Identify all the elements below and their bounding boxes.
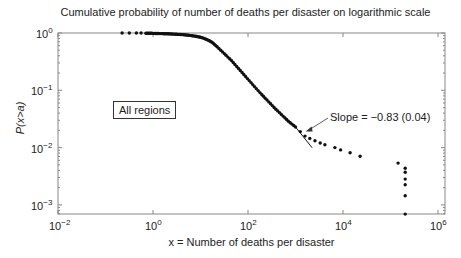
data-point [323, 143, 326, 146]
data-point [404, 171, 407, 174]
data-point [135, 31, 138, 34]
data-point [319, 141, 322, 144]
x-tick-label: 104 [335, 218, 352, 232]
y-tick-label: 10−1 [31, 83, 52, 97]
data-point [404, 167, 407, 170]
data-point [333, 146, 336, 149]
data-series [120, 31, 407, 216]
data-point [404, 177, 407, 180]
data-point [139, 31, 142, 34]
data-point [358, 155, 361, 158]
data-point [308, 137, 311, 140]
x-tick-label: 102 [240, 218, 257, 232]
data-point [339, 148, 342, 151]
arrowhead-icon [306, 127, 313, 132]
data-point [120, 31, 123, 34]
data-point [128, 31, 131, 34]
y-tick-label: 100 [36, 26, 53, 40]
data-point [348, 151, 351, 154]
data-point [404, 212, 407, 215]
y-tick-label: 10−3 [31, 198, 52, 212]
x-tick-label: 100 [145, 218, 162, 232]
slope-annotation: Slope = −0.83 (0.04) [330, 111, 430, 123]
x-tick-label: 10−2 [49, 218, 70, 232]
data-point [396, 161, 399, 164]
plot-frame [58, 33, 445, 214]
x-tick-label: 106 [430, 218, 447, 232]
y-axis-label: P(x>a) [14, 88, 26, 148]
data-point [404, 183, 407, 186]
data-point [404, 194, 407, 197]
region-label-box: All regions [113, 101, 176, 119]
data-point [313, 139, 316, 142]
x-axis-label: x = Number of deaths per disaster [58, 236, 445, 248]
y-tick-label: 10−2 [31, 141, 52, 155]
annotation-arrow [310, 118, 328, 130]
